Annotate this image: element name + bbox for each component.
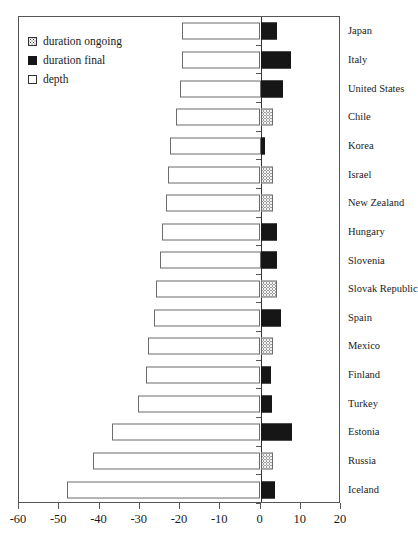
bar-row: [19, 103, 339, 132]
bar-duration-ongoing: [261, 166, 274, 183]
bar-row: [19, 389, 339, 418]
bar-duration-final: [261, 481, 275, 498]
x-tick: [99, 503, 100, 509]
category-label: Russia: [348, 455, 376, 466]
x-tick: [18, 503, 19, 509]
bar-depth: [138, 395, 261, 412]
bar-row: [19, 246, 339, 275]
bar-row: [19, 132, 339, 161]
category-label: Finland: [348, 369, 380, 380]
bar-depth: [176, 109, 261, 126]
bar-row: [19, 303, 339, 332]
category-label: Turkey: [348, 397, 378, 408]
bar-row: [19, 332, 339, 361]
category-label: Israel: [348, 168, 371, 179]
x-tick: [179, 503, 180, 509]
category-label: Japan: [348, 25, 372, 36]
bar-duration-final: [261, 395, 272, 412]
bar-depth: [162, 223, 261, 240]
bar-row: [19, 189, 339, 218]
plot-area: [18, 16, 340, 503]
bar-depth: [154, 309, 261, 326]
bar-depth: [160, 252, 261, 269]
bar-depth: [182, 23, 260, 40]
bar-duration-final: [261, 309, 281, 326]
bar-depth: [168, 166, 261, 183]
x-tick: [58, 503, 59, 509]
x-tick: [300, 503, 301, 509]
x-tick: [219, 503, 220, 509]
bar-row: [19, 275, 339, 304]
category-label: Chile: [348, 111, 371, 122]
bar-row: [19, 475, 339, 504]
chart-legend: duration ongoing duration final depth: [28, 32, 122, 89]
empty-square-icon: [28, 75, 37, 84]
bar-duration-final: [261, 137, 266, 154]
legend-item-duration-ongoing: duration ongoing: [28, 32, 122, 51]
legend-item-duration-final: duration final: [28, 51, 122, 70]
legend-label: depth: [43, 70, 69, 89]
bar-depth: [166, 195, 261, 212]
x-tick-label: -40: [90, 512, 107, 527]
bar-duration-ongoing: [261, 453, 273, 470]
x-tick-label: 0: [256, 512, 262, 527]
category-label: Estonia: [348, 426, 380, 437]
bar-depth: [93, 453, 260, 470]
legend-item-depth: depth: [28, 70, 122, 89]
category-label: United States: [348, 82, 404, 93]
bar-depth: [170, 137, 261, 154]
bar-duration-final: [261, 80, 283, 97]
bar-duration-ongoing: [261, 281, 277, 298]
category-label: Slovenia: [348, 254, 385, 265]
bar-duration-final: [261, 424, 292, 441]
bar-row: [19, 447, 339, 476]
category-label: Slovak Republic: [348, 283, 418, 294]
legend-label: duration ongoing: [43, 32, 122, 51]
category-label: Italy: [348, 53, 367, 64]
bar-depth: [180, 80, 261, 97]
category-label: Korea: [348, 139, 374, 150]
bar-depth: [112, 424, 261, 441]
x-tick-label: 10: [294, 512, 307, 527]
x-tick: [340, 503, 341, 509]
x-tick-label: -50: [50, 512, 67, 527]
category-label: Iceland: [348, 483, 379, 494]
bar-duration-ongoing: [261, 195, 274, 212]
bar-duration-final: [261, 51, 291, 68]
x-tick-label: -10: [211, 512, 228, 527]
bar-duration-final: [261, 252, 277, 269]
x-tick-label: -20: [171, 512, 188, 527]
legend-label: duration final: [43, 51, 105, 70]
category-label: Mexico: [348, 340, 380, 351]
bar-row: [19, 218, 339, 247]
x-tick: [260, 503, 261, 509]
category-label: Spain: [348, 311, 372, 322]
bar-depth: [148, 338, 261, 355]
bar-row: [19, 361, 339, 390]
bar-duration-ongoing: [261, 338, 274, 355]
filled-square-icon: [28, 56, 37, 65]
x-tick-label: -30: [130, 512, 147, 527]
bar-depth: [182, 51, 260, 68]
bar-depth: [146, 367, 261, 384]
bar-row: [19, 160, 339, 189]
bar-duration-final: [261, 367, 271, 384]
bar-depth: [67, 481, 260, 498]
bar-duration-final: [261, 23, 277, 40]
bar-chart: duration ongoing duration final depth Ja…: [0, 0, 418, 547]
bar-row: [19, 418, 339, 447]
x-tick-label: -60: [10, 512, 27, 527]
bar-duration-ongoing: [261, 109, 273, 126]
bar-duration-final: [261, 223, 278, 240]
bar-rows: [19, 17, 339, 502]
x-axis: -60-50-40-30-20-1001020: [18, 503, 340, 547]
dotted-square-icon: [28, 37, 37, 46]
category-label: Hungary: [348, 225, 385, 236]
category-label: New Zealand: [348, 197, 404, 208]
x-tick-label: 20: [334, 512, 347, 527]
bar-depth: [156, 281, 261, 298]
x-tick: [139, 503, 140, 509]
